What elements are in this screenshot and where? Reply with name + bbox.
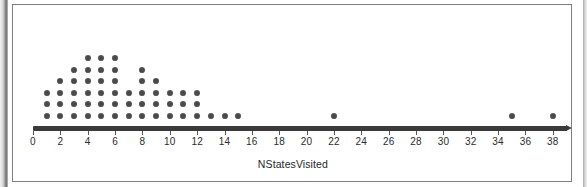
data-dot <box>126 90 131 95</box>
data-dot <box>85 114 90 119</box>
x-axis-tick-label: 30 <box>438 136 450 147</box>
x-axis-tick-label: 0 <box>30 136 36 147</box>
x-axis-tick-label: 22 <box>328 136 340 147</box>
x-axis-tick <box>33 131 34 135</box>
data-dot <box>44 90 49 95</box>
x-axis-tick-label: 2 <box>57 136 63 147</box>
data-dot <box>85 102 90 107</box>
data-dot <box>140 102 145 107</box>
data-dot <box>85 67 90 72</box>
x-axis-tick-label: 34 <box>492 136 504 147</box>
x-axis-tick-label: 28 <box>410 136 422 147</box>
data-dot <box>113 67 118 72</box>
x-axis-tick <box>225 131 226 135</box>
data-dot <box>99 79 104 84</box>
data-dot <box>72 114 77 119</box>
data-dot <box>72 90 77 95</box>
x-axis-tick <box>252 131 253 135</box>
data-dot <box>140 114 145 119</box>
data-dot <box>331 114 336 119</box>
data-dot <box>99 114 104 119</box>
x-axis-tick <box>60 131 61 135</box>
x-axis-tick <box>307 131 308 135</box>
data-dot <box>195 102 200 107</box>
x-axis-tick <box>361 131 362 135</box>
page-edge-left <box>0 0 8 187</box>
data-dot <box>113 79 118 84</box>
data-dot <box>550 114 555 119</box>
x-axis-tick-label: 10 <box>164 136 176 147</box>
data-dot <box>154 79 159 84</box>
x-axis-tick <box>389 131 390 135</box>
x-axis-title: NStatesVisited <box>258 158 328 170</box>
data-dot <box>181 90 186 95</box>
data-dot <box>44 114 49 119</box>
data-dot <box>208 114 213 119</box>
data-dot <box>113 114 118 119</box>
x-axis-tick <box>334 131 335 135</box>
x-axis-tick-label: 18 <box>273 136 285 147</box>
data-dot <box>140 79 145 84</box>
data-dot <box>58 79 63 84</box>
data-dot <box>113 102 118 107</box>
x-axis-tick-label: 16 <box>246 136 258 147</box>
x-axis-tick <box>443 131 444 135</box>
data-dot <box>113 90 118 95</box>
data-dot <box>154 102 159 107</box>
data-dot <box>236 114 241 119</box>
data-dot <box>58 90 63 95</box>
data-dot <box>85 79 90 84</box>
data-dot <box>58 114 63 119</box>
x-axis-tick <box>115 131 116 135</box>
data-dot <box>72 79 77 84</box>
x-axis-tick-label: 20 <box>301 136 313 147</box>
data-dot <box>222 114 227 119</box>
data-dot <box>72 67 77 72</box>
data-dot <box>195 114 200 119</box>
x-axis-tick <box>170 131 171 135</box>
x-axis-tick-label: 8 <box>140 136 146 147</box>
data-dot <box>85 90 90 95</box>
data-dot <box>154 114 159 119</box>
x-axis-tick <box>279 131 280 135</box>
x-axis-tick-label: 4 <box>85 136 91 147</box>
x-axis-tick <box>525 131 526 135</box>
x-axis-tick <box>197 131 198 135</box>
x-axis-line <box>33 126 567 131</box>
data-dot <box>126 102 131 107</box>
data-dot <box>44 102 49 107</box>
dotplot-figure: 02468101214161820222426283032343638NStat… <box>0 0 587 187</box>
data-dot <box>58 102 63 107</box>
x-axis-tick-label: 12 <box>191 136 203 147</box>
x-axis-tick <box>498 131 499 135</box>
page-edge-right <box>583 0 587 187</box>
data-dot <box>181 102 186 107</box>
x-axis-tick <box>471 131 472 135</box>
data-dot <box>167 102 172 107</box>
x-axis-tick-label: 24 <box>356 136 368 147</box>
data-dot <box>99 90 104 95</box>
data-dot <box>113 56 118 61</box>
x-axis-tick <box>416 131 417 135</box>
data-dot <box>99 102 104 107</box>
plot-area: 02468101214161820222426283032343638NStat… <box>12 4 572 182</box>
data-dot <box>154 90 159 95</box>
x-axis-tick-label: 6 <box>112 136 118 147</box>
x-axis-tick-label: 32 <box>465 136 477 147</box>
data-dot <box>195 90 200 95</box>
data-dot <box>72 102 77 107</box>
data-dot <box>181 114 186 119</box>
x-axis-tick <box>142 131 143 135</box>
x-axis-tick-label: 38 <box>547 136 559 147</box>
x-axis-tick-label: 36 <box>520 136 532 147</box>
data-dot <box>140 67 145 72</box>
x-axis-tick <box>88 131 89 135</box>
data-dot <box>509 114 514 119</box>
x-axis-tick-label: 26 <box>383 136 395 147</box>
data-dot <box>126 114 131 119</box>
data-dot <box>99 67 104 72</box>
x-axis-tick <box>553 131 554 135</box>
data-dot <box>99 56 104 61</box>
x-axis-tick-label: 14 <box>219 136 231 147</box>
data-dot <box>167 90 172 95</box>
